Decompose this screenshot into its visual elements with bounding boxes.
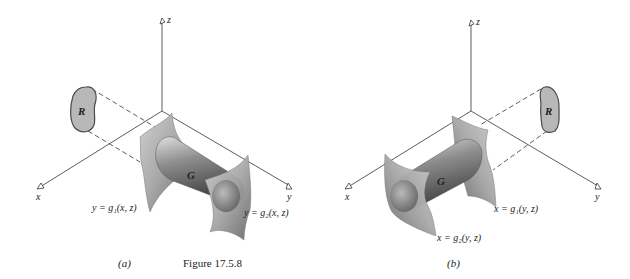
figure-canvas — [0, 0, 630, 279]
cylinder-cap-a — [212, 180, 240, 212]
region-label-b: R — [545, 106, 552, 117]
projection-lines-b — [480, 89, 547, 170]
y-axis-label-b: y — [595, 192, 599, 202]
z-arrow-icon — [469, 20, 474, 26]
z-arrow-icon — [160, 18, 165, 24]
z-axis-label-b: z — [476, 17, 480, 27]
z-axis-label-a: z — [167, 15, 171, 25]
x-axis-label-b: x — [345, 192, 349, 202]
surface-upper-label-a: y = g₂(x, z) — [244, 208, 289, 218]
panel-label-b: (b) — [447, 258, 460, 269]
y-axis-label-a: y — [287, 192, 291, 202]
panel-label-a: (a) — [118, 258, 131, 269]
figure-caption: Figure 17.5.8 — [183, 258, 242, 269]
x-arrow-icon — [345, 183, 352, 189]
surface-lower-label-b: x = g₁(y, z) — [494, 204, 538, 214]
solid-label-b: G — [437, 176, 445, 187]
y-arrow-icon — [595, 183, 601, 189]
x-arrow-icon — [37, 183, 44, 189]
surface-lower-label-a: y = g₁(x, z) — [92, 203, 137, 213]
x-axis-label-a: x — [36, 192, 40, 202]
cylinder-cap-b — [390, 180, 418, 212]
region-label-a: R — [78, 106, 85, 117]
panel-b — [345, 20, 601, 236]
solid-label-a: G — [187, 170, 195, 181]
surface-upper-label-b: x = g₂(y, z) — [437, 233, 481, 243]
